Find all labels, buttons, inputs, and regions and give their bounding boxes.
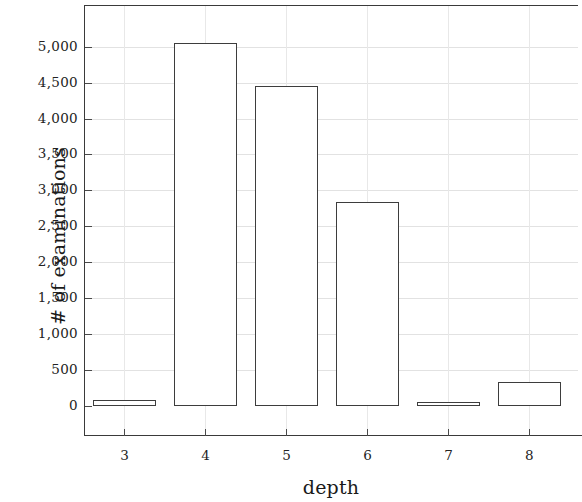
tick-mark (85, 334, 92, 335)
plot-frame-top (84, 5, 578, 6)
tick-mark (205, 429, 206, 436)
gridline (85, 262, 578, 263)
gridline (448, 6, 449, 435)
y-tick-label: 1,000 (20, 327, 78, 341)
y-tick-label: 0 (20, 399, 78, 413)
tick-mark (85, 298, 92, 299)
tick-mark (448, 429, 449, 436)
y-tick-label: 5,000 (20, 40, 78, 54)
y-tick-label: 2,000 (20, 255, 78, 269)
gridline (85, 370, 578, 371)
gridline (85, 83, 578, 84)
x-tick-label: 8 (509, 449, 549, 463)
y-tick-label: 4,000 (20, 112, 78, 126)
gridline (85, 119, 578, 120)
bar (498, 382, 561, 406)
bar-chart-figure: # of examinations 05001,0001,5002,0002,5… (0, 0, 582, 502)
gridline (85, 190, 578, 191)
gridline (124, 6, 125, 435)
tick-mark (85, 119, 92, 120)
bar (417, 402, 480, 406)
gridline (85, 298, 578, 299)
tick-mark (85, 406, 92, 407)
gridline (529, 6, 530, 435)
tick-mark (367, 429, 368, 436)
tick-mark (85, 190, 92, 191)
y-tick-label: 2,500 (20, 219, 78, 233)
gridline (85, 334, 578, 335)
tick-mark (286, 429, 287, 436)
tick-mark (85, 83, 92, 84)
tick-mark (85, 226, 92, 227)
y-tick-label: 3,000 (20, 183, 78, 197)
y-tick-label: 3,500 (20, 147, 78, 161)
tick-mark (85, 370, 92, 371)
plot-area (84, 5, 578, 406)
gridline (85, 154, 578, 155)
tick-mark (529, 429, 530, 436)
x-tick-label: 5 (266, 449, 306, 463)
gridline (85, 47, 578, 48)
y-tick-label: 4,500 (20, 76, 78, 90)
y-axis-tick-labels: 05001,0001,5002,0002,5003,0003,5004,0004… (0, 0, 78, 502)
bar (93, 400, 156, 406)
tick-mark (124, 429, 125, 436)
tick-mark (85, 154, 92, 155)
x-tick-label: 3 (104, 449, 144, 463)
y-tick-label: 500 (20, 363, 78, 377)
bar (255, 86, 318, 406)
bar (336, 202, 399, 406)
tick-mark (85, 47, 92, 48)
plot-frame-bottom-axis (84, 435, 582, 436)
x-tick-label: 4 (185, 449, 225, 463)
gridline (85, 226, 578, 227)
y-tick-label: 1,500 (20, 291, 78, 305)
x-tick-label: 7 (428, 449, 468, 463)
x-axis-title: depth (84, 476, 578, 498)
x-tick-label: 6 (347, 449, 387, 463)
bar (174, 43, 237, 406)
tick-mark (85, 262, 92, 263)
